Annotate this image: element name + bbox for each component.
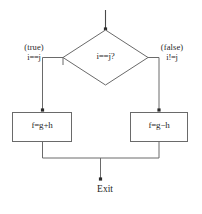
process-box-right-label: f=g−h: [130, 120, 188, 130]
exit-label: Exit: [80, 184, 130, 195]
branch-label-true-expression: i==j: [10, 53, 58, 63]
branch-label-true-condition: (true): [24, 42, 43, 52]
branch-label-true: (true) i==j: [10, 43, 58, 62]
branch-label-false-expression: i!=j: [147, 53, 197, 63]
process-box-left-label: f=g+h: [12, 120, 72, 130]
decision-label: i==j?: [63, 51, 148, 61]
flowchart-canvas: [0, 0, 202, 214]
flowchart-figure: (true) i==j (false) i!=j i==j? f=g+h f=g…: [0, 0, 202, 214]
figure-caption: [0, 205, 202, 214]
branch-label-false-condition: (false): [161, 42, 183, 52]
branch-label-false: (false) i!=j: [147, 43, 197, 62]
